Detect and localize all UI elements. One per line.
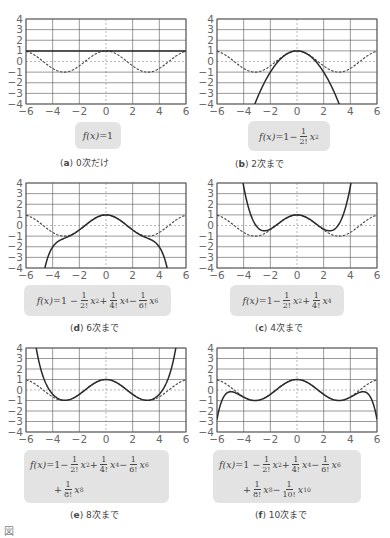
x-tick-label: 4: [156, 105, 163, 117]
panel-caption-d: (d) 6次まで: [70, 321, 119, 334]
x-tick-label: 6: [374, 433, 381, 445]
x-tick-label: 6: [183, 269, 190, 281]
fraction: 12!: [282, 291, 292, 310]
formula-box-c: f(x)=1−12!x2+14!x4: [230, 285, 344, 316]
fraction: 12!: [298, 127, 308, 146]
x-tick-label: −4: [236, 433, 252, 445]
formula-box-b: f(x)=1−12!x2: [248, 121, 330, 151]
panel-caption-c: (c) 4次まで: [255, 321, 303, 334]
formula-line: f(x)=1−12!x2: [254, 123, 324, 149]
formula-line: +18!x8−110!x10: [219, 478, 355, 502]
formula-line: f(x)=1−12!x2+14!x4: [236, 288, 338, 314]
x-tick-label: −4: [45, 105, 61, 117]
fraction: 14!: [311, 291, 321, 310]
x-tick-label: 0: [103, 269, 110, 281]
x-tick-label: 0: [103, 105, 110, 117]
formula-line: f(x)=1 −12!x2+14!x4−16!x6: [30, 288, 165, 314]
x-tick-label: −2: [263, 433, 278, 445]
plot-a: 43210−1−2−3−4−6−4−20246: [26, 19, 186, 104]
x-tick-label: 0: [294, 269, 301, 281]
x-tick-label: 2: [320, 105, 327, 117]
plot-b: 43210−1−2−3−4−6−4−20246: [217, 19, 377, 104]
x-tick-label: −6: [18, 433, 34, 445]
formula-box-d: f(x)=1 −12!x2+14!x4−16!x6: [24, 285, 171, 316]
formula-box-e: f(x)=1−12!x2+14!x4−16!x6+18!x8: [24, 450, 169, 503]
fraction: 14!: [291, 455, 301, 474]
x-tick-label: 2: [129, 269, 136, 281]
fraction: 12!: [69, 455, 79, 474]
x-tick-label: −6: [18, 269, 34, 281]
figure-caption: 図: [4, 523, 14, 538]
x-tick-label: 4: [347, 105, 354, 117]
panel-caption-e: (e) 8次まで: [70, 508, 119, 521]
formula-line: f(x)=1−12!x2+14!x4−16!x6: [30, 452, 163, 478]
x-tick-label: 2: [129, 105, 136, 117]
x-tick-label: −2: [72, 433, 87, 445]
x-tick-label: 6: [374, 105, 381, 117]
fraction: 12!: [261, 455, 271, 474]
x-tick-label: 2: [320, 433, 327, 445]
formula-line: f(x)=1 −12!x2+14!x4−16!x6: [219, 452, 355, 478]
x-tick-label: 0: [294, 105, 301, 117]
x-tick-label: −2: [263, 269, 278, 281]
x-tick-label: 4: [347, 433, 354, 445]
formula-line: +18!x8: [30, 478, 163, 502]
x-tick-label: −6: [209, 433, 225, 445]
x-tick-label: 0: [294, 433, 301, 445]
x-tick-label: −2: [72, 269, 87, 281]
x-tick-label: 6: [183, 433, 190, 445]
plot-f: 43210−1−2−3−4−6−4−20246: [217, 348, 377, 432]
panel-caption-a: (a) 0次だけ: [60, 156, 109, 169]
x-tick-label: 6: [374, 269, 381, 281]
x-tick-label: 2: [320, 269, 327, 281]
fraction: 16!: [320, 455, 330, 474]
x-tick-label: −6: [18, 105, 34, 117]
fraction: 12!: [79, 291, 89, 310]
x-tick-label: −4: [236, 269, 252, 281]
x-tick-label: 4: [156, 433, 163, 445]
x-tick-label: 6: [183, 105, 190, 117]
formula-box-f: f(x)=1 −12!x2+14!x4−16!x6+18!x8−110!x10: [213, 450, 361, 503]
plot-e: 43210−1−2−3−4−6−4−20246: [26, 348, 186, 432]
panel-caption-f: (f) 10次まで: [255, 508, 307, 521]
x-tick-label: −4: [45, 269, 61, 281]
x-tick-label: −2: [263, 105, 278, 117]
formula-line: f(x)=1: [81, 123, 115, 149]
x-tick-label: −4: [45, 433, 61, 445]
panel-caption-b: (b) 2次まで: [235, 157, 284, 170]
fraction: 16!: [138, 291, 148, 310]
x-tick-label: −6: [209, 269, 225, 281]
x-tick-label: 4: [347, 269, 354, 281]
x-tick-label: −4: [236, 105, 252, 117]
plot-c: 43210−1−2−3−4−6−4−20246: [217, 183, 377, 268]
x-tick-label: 4: [156, 269, 163, 281]
fraction: 14!: [99, 455, 109, 474]
x-tick-label: −2: [72, 105, 87, 117]
fraction: 18!: [252, 480, 262, 499]
fraction: 14!: [108, 291, 118, 310]
fraction: 18!: [63, 480, 73, 499]
fraction: 110!: [281, 480, 296, 499]
formula-box-a: f(x)=1: [75, 122, 121, 149]
x-tick-label: −6: [209, 105, 225, 117]
x-tick-label: 0: [103, 433, 110, 445]
fraction: 16!: [128, 455, 138, 474]
plot-d: 43210−1−2−3−4−6−4−20246: [26, 183, 186, 268]
x-tick-label: 2: [129, 433, 136, 445]
